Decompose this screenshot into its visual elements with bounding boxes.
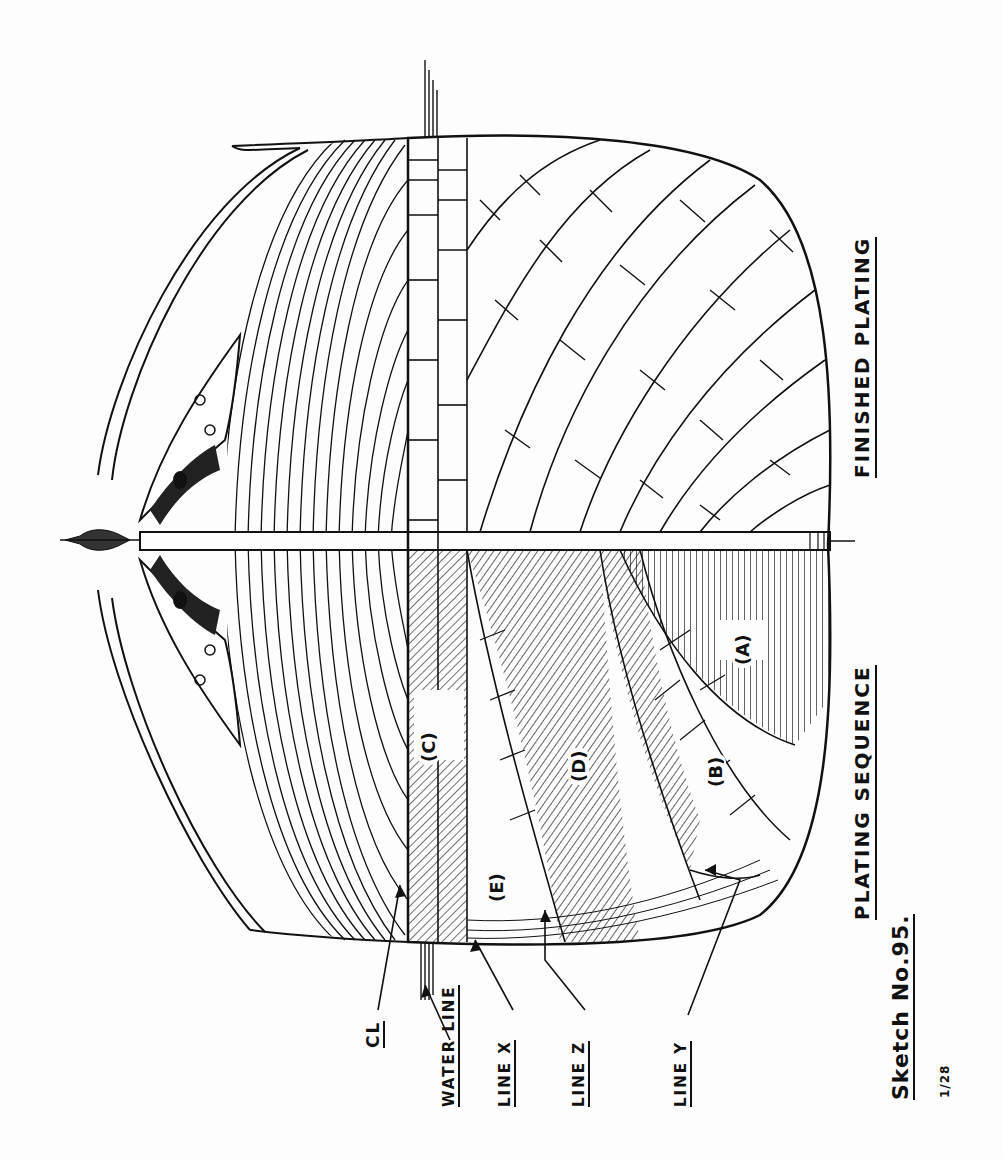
keel-bar: [140, 532, 855, 550]
line-x-label: LINE X: [496, 1040, 516, 1107]
plating-sequence-title: PLATING SEQUENCE: [850, 665, 877, 920]
section-b-label: (B): [705, 754, 726, 790]
cl-leader: [378, 885, 400, 1010]
line-y-label: LINE Y: [672, 1041, 692, 1107]
water-line-label: WATER LINE: [440, 985, 460, 1107]
section-e-label: (E): [486, 870, 507, 905]
sketch-number: Sketch No.95.: [888, 914, 915, 1100]
section-d-label: (D): [568, 748, 589, 785]
drawing-page: (A) (B) (C) (D) (E) FINISHED PLATING PLA…: [0, 0, 1003, 1159]
finished-plating-title: FINISHED PLATING: [850, 237, 877, 478]
section-c-label: (C): [418, 729, 439, 765]
line-z-label: LINE Z: [570, 1041, 590, 1107]
section-a-label: (A): [732, 632, 753, 668]
cl-label: CL: [363, 1021, 385, 1048]
line-x-leader: [475, 940, 513, 1010]
scale-label: 1/28: [938, 1065, 952, 1098]
hull-drawing: [0, 0, 1003, 1159]
plating-sequence-area: [408, 550, 830, 942]
